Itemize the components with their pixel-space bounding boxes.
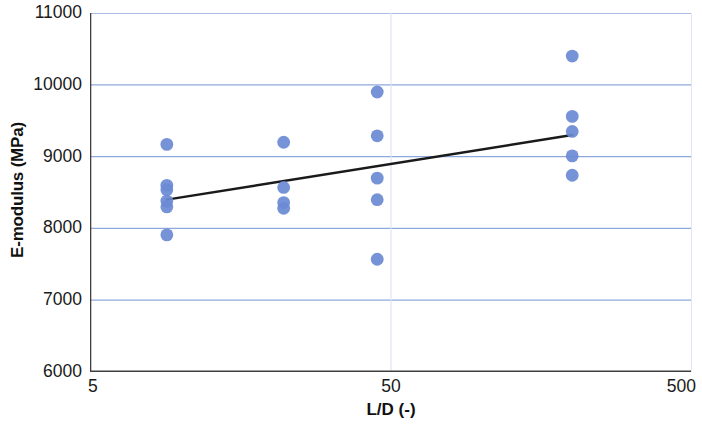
scatter-point [160, 183, 173, 196]
scatter-point [371, 86, 384, 99]
x-tick-label: 500 [667, 378, 696, 396]
scatter-point [371, 129, 384, 142]
scatter-point [566, 169, 579, 182]
y-tick-label: 9000 [18, 148, 82, 166]
scatter-point [371, 253, 384, 266]
scatter-point [160, 200, 173, 213]
scatter-point [566, 110, 579, 123]
scatter-point [566, 125, 579, 138]
scatter-point [371, 172, 384, 185]
plot-area [90, 13, 692, 372]
y-tick-label: 11000 [18, 4, 82, 22]
data-points [160, 50, 578, 266]
trendline [167, 135, 572, 200]
y-tick-label: 10000 [18, 76, 82, 94]
scatter-point [371, 193, 384, 206]
scatter-point [160, 138, 173, 151]
y-axis-title: E-modulus (MPa) [0, 0, 36, 380]
x-tick-label: 50 [381, 378, 400, 396]
scatter-point [566, 149, 579, 162]
scatter-point [160, 228, 173, 241]
y-axis-title-text: E-modulus (MPa) [8, 122, 28, 258]
chart-container: E-modulus (MPa) 600070008000900010000110… [0, 0, 702, 436]
y-tick-label: 6000 [18, 363, 82, 381]
scatter-point [566, 50, 579, 63]
y-tick-label: 7000 [18, 291, 82, 309]
x-axis-title: L/D (-) [90, 400, 692, 420]
y-tick-label: 8000 [18, 219, 82, 237]
scatter-point [277, 202, 290, 215]
scatter-point [277, 136, 290, 149]
x-tick-label: 5 [88, 378, 98, 396]
x-axis-title-text: L/D (-) [366, 400, 415, 419]
scatter-point [277, 181, 290, 194]
scatter-plot-svg [90, 13, 692, 372]
